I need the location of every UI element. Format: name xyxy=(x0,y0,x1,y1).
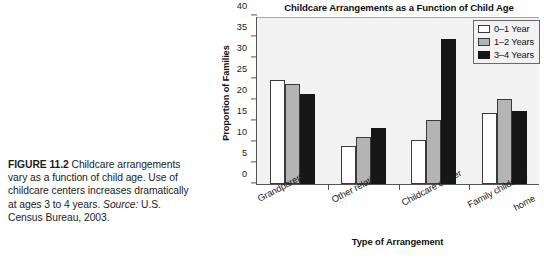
bar xyxy=(270,80,285,184)
legend-swatch xyxy=(478,38,490,46)
x-axis-title: Type of Arrangement xyxy=(256,236,539,247)
bar xyxy=(285,84,300,184)
x-tick-mark xyxy=(399,184,400,190)
x-tick-mark xyxy=(328,184,329,190)
legend-label: 3–4 Years xyxy=(494,50,534,60)
y-tick-label: 25 xyxy=(217,64,247,74)
bar xyxy=(497,99,512,184)
bar xyxy=(300,94,315,184)
legend-item: 0–1 Year xyxy=(478,24,534,34)
bar-chart-figure: Childcare Arrangements as a Function of … xyxy=(208,0,544,269)
chart-title: Childcare Arrangements as a Function of … xyxy=(254,2,544,13)
y-tick-label: 40 xyxy=(217,1,247,11)
y-tick-label: 10 xyxy=(217,127,247,137)
legend-item: 3–4 Years xyxy=(478,50,534,60)
bar xyxy=(441,39,456,184)
y-tick-label: 30 xyxy=(217,43,247,53)
bar-group xyxy=(399,17,470,184)
y-tick-label: 35 xyxy=(217,22,247,32)
legend-label: 1–2 Years xyxy=(494,37,534,47)
chart-legend: 0–1 Year1–2 Years3–4 Years xyxy=(473,20,540,64)
bar xyxy=(411,140,426,184)
x-tick-mark xyxy=(469,184,470,190)
bar-group xyxy=(328,17,399,184)
legend-swatch xyxy=(478,25,490,33)
x-category-label: home xyxy=(512,193,537,213)
source-label: Source: xyxy=(103,199,138,210)
y-tick-label: 20 xyxy=(217,85,247,95)
legend-label: 0–1 Year xyxy=(494,24,529,34)
figure-caption: FIGURE 11.2 Childcare arrangements vary … xyxy=(8,158,198,224)
bar-group xyxy=(257,17,328,184)
bar xyxy=(482,113,497,184)
y-tick-label: 5 xyxy=(217,148,247,158)
bar xyxy=(426,120,441,184)
figure-number: FIGURE 11.2 xyxy=(8,159,69,170)
y-tick-label: 0 xyxy=(217,169,247,179)
y-tick-mark xyxy=(251,14,257,15)
bar xyxy=(341,146,356,184)
y-tick-label: 15 xyxy=(217,106,247,116)
legend-swatch xyxy=(478,51,490,59)
legend-item: 1–2 Years xyxy=(478,37,534,47)
